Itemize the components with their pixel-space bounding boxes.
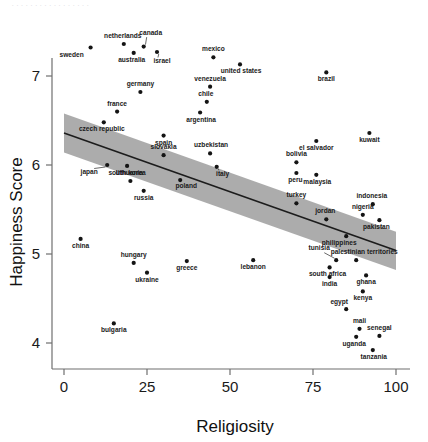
point-label: ghana [356,278,376,286]
point-label: senegal [367,324,392,332]
point-label: kuwait [359,136,380,143]
data-point [185,259,189,263]
data-point [115,110,119,114]
data-point [367,131,371,135]
point-label: japan [80,168,98,176]
y-axis-title: Happiness Score [7,157,26,286]
data-point [344,234,348,238]
point-label: south africa [309,270,347,277]
data-point [208,85,212,89]
data-point [361,289,365,293]
data-point [125,164,129,168]
point-label: united states [221,67,262,74]
point-label: china [72,242,90,249]
data-point [105,163,109,167]
point-label: sweden [60,51,84,58]
point-label: poland [175,182,197,190]
point-label: nigeria [352,203,374,211]
data-point [364,273,368,277]
data-point [324,70,328,74]
point-label: france [107,100,127,107]
y-tick-label: 7 [32,67,40,84]
data-point [132,261,136,265]
point-label: jordan [314,207,335,215]
data-point [314,139,318,143]
x-tick-label: 25 [139,378,156,395]
x-tick-label: 50 [222,378,239,395]
data-point [102,120,106,124]
point-label: tunisia [309,244,331,251]
point-label: pakistan [363,223,390,231]
data-point [138,90,142,94]
point-label: germany [127,80,155,88]
point-label: canada [139,29,162,36]
point-label: india [322,280,338,287]
data-point [198,110,202,114]
data-point [208,151,212,155]
regression-line [64,133,396,250]
data-point [377,218,381,222]
point-label: argentina [186,116,216,124]
data-point [294,201,298,205]
data-point [112,321,116,325]
data-point [344,307,348,311]
point-label: czech republic [79,125,125,133]
point-label: bolivia [286,150,307,157]
point-label: uganda [342,340,366,348]
point-label: malaysia [303,178,331,186]
x-axis-title: Religiosity [196,417,274,436]
point-label: brazil [318,75,335,82]
data-point [215,165,219,169]
point-label: indonesia [356,192,387,199]
y-tick-label: 6 [32,156,40,173]
point-label: venezuela [194,75,226,82]
data-point [251,258,255,262]
data-point [377,334,381,338]
point-label: russia [134,194,154,201]
data-point [328,265,332,269]
data-point [294,160,298,164]
data-point [142,45,146,49]
data-point [162,153,166,157]
data-point [205,100,209,104]
data-point [211,55,215,59]
data-point [128,179,132,183]
x-tick-label: 75 [305,378,322,395]
data-point [238,62,242,66]
data-point [122,42,126,46]
point-label: mali [353,317,366,324]
data-point [354,258,358,262]
point-label: italy [216,170,230,178]
point-label: slovakia [151,143,177,150]
data-point [142,189,146,193]
point-label: kenya [353,294,372,302]
data-point [324,217,328,221]
data-point [89,45,93,49]
x-tick-label: 0 [60,378,68,395]
data-point [145,271,149,275]
point-label: tanzania [361,353,388,360]
x-tick-label: 100 [383,378,408,395]
data-point [371,348,375,352]
point-label: hungary [121,251,147,259]
point-label: netherlands [104,32,142,39]
point-label: palestinian territories [331,248,398,256]
y-tick-label: 5 [32,245,40,262]
point-label: lebanon [241,263,266,270]
y-tick-label: 4 [32,334,40,351]
point-label: lithuania [116,169,143,176]
data-point [361,213,365,217]
chart-page: . . . . . . . . . . . . . . . . . 456702… [0,0,428,442]
point-label: peru [288,176,302,184]
data-point [314,173,318,177]
point-label: uzbekistan [194,141,228,148]
data-point [132,51,136,55]
data-point [294,171,298,175]
point-label: turkey [287,191,307,199]
point-label: greece [176,264,198,272]
data-point [79,237,83,241]
data-point [162,134,166,138]
data-point [357,327,361,331]
scatter-plot: 45670255075100 swedennetherlandscanadaau… [0,0,428,442]
point-label: bulgaria [101,326,127,334]
